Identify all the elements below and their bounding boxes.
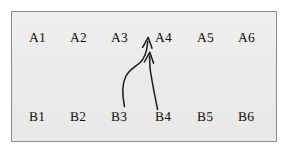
node-label-b2: B2 (70, 110, 86, 124)
node-label-a5: A5 (197, 31, 214, 45)
node-label-b5: B5 (197, 110, 213, 124)
node-label-b3: B3 (111, 110, 127, 124)
node-label-layer: A1 A2 A3 A4 A5 A6 B1 B2 B3 B4 B5 B6 (0, 0, 292, 154)
node-label-b4: B4 (155, 110, 171, 124)
node-label-a6: A6 (238, 31, 255, 45)
node-label-a1: A1 (29, 31, 46, 45)
node-label-a2: A2 (70, 31, 87, 45)
diagram-root: A1 A2 A3 A4 A5 A6 B1 B2 B3 B4 B5 B6 (0, 0, 292, 154)
node-label-b6: B6 (238, 110, 254, 124)
node-label-a4: A4 (155, 31, 172, 45)
node-label-b1: B1 (29, 110, 45, 124)
node-label-a3: A3 (111, 31, 128, 45)
